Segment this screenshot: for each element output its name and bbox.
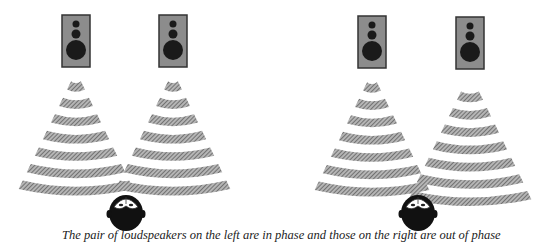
sound-wave-band <box>124 164 223 178</box>
sound-wave-band <box>425 158 515 172</box>
sound-wave-band <box>156 98 190 109</box>
sound-wave-band <box>433 141 507 154</box>
sound-wave-band <box>323 165 422 179</box>
sound-wave-band <box>148 114 198 126</box>
sound-wave-band <box>417 174 524 188</box>
sound-waves <box>19 81 532 206</box>
loudspeaker <box>62 15 90 67</box>
sound-wave-band <box>35 147 117 160</box>
sound-wave-band <box>363 82 381 93</box>
sound-wave-band <box>132 147 214 160</box>
woofer-icon <box>163 40 183 60</box>
woofer-icon <box>66 40 86 60</box>
sound-wave-band <box>140 131 206 144</box>
sound-wave-band <box>164 81 182 92</box>
midrange-icon <box>169 30 178 39</box>
sound-wave-band <box>347 115 397 127</box>
listener-head-icon <box>107 195 146 231</box>
listeners <box>107 195 438 231</box>
tweeter-icon <box>369 22 376 29</box>
sound-wave-band <box>27 164 126 178</box>
sound-wave-band <box>43 131 109 144</box>
sound-wave-band <box>67 81 85 92</box>
loudspeaker <box>358 16 386 68</box>
sound-wave-band <box>355 99 389 110</box>
tweeter-icon <box>467 23 474 30</box>
sound-wave-band <box>331 148 413 161</box>
midrange-icon <box>368 31 377 40</box>
speakers <box>62 15 484 69</box>
sound-wave-band <box>51 114 101 126</box>
loudspeaker <box>456 17 484 69</box>
sound-wave-band <box>449 108 491 120</box>
sound-wave-band <box>441 125 499 137</box>
woofer-icon <box>460 42 480 62</box>
midrange-icon <box>466 32 475 41</box>
tweeter-icon <box>73 21 80 28</box>
sound-wave-band <box>59 98 93 109</box>
loudspeaker <box>159 15 187 67</box>
figure-caption: The pair of loudspeakers on the left are… <box>62 228 501 242</box>
midrange-icon <box>72 30 81 39</box>
sound-wave-band <box>339 132 405 145</box>
sound-wave-band <box>457 91 483 102</box>
woofer-icon <box>362 41 382 61</box>
sound-wave-band <box>116 181 231 196</box>
tweeter-icon <box>170 21 177 28</box>
